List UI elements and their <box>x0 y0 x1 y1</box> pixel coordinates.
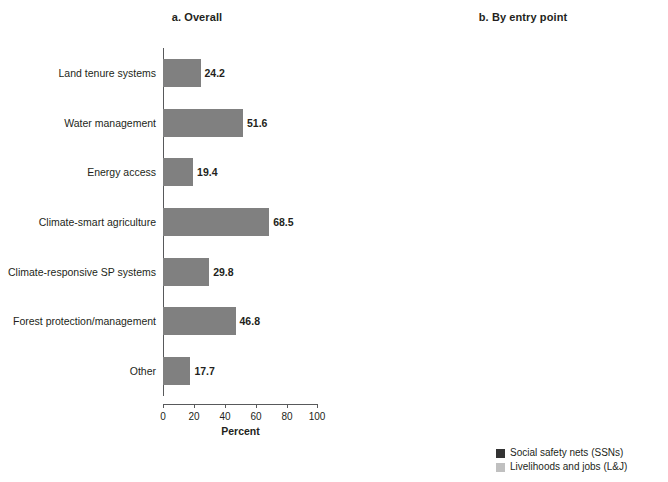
bar-group: Climate-responsive SP systems 29.8 <box>163 247 318 297</box>
bar-group: Forest protection/management 46.8 <box>163 297 318 347</box>
bar-overall: 29.8 <box>163 258 209 286</box>
legend-label: Social safety nets (SSNs) <box>510 448 623 458</box>
x-tick <box>287 404 288 408</box>
category-label: Other <box>130 366 156 377</box>
bar-group: Other 17.7 <box>163 346 318 396</box>
bar-value-label: 19.4 <box>197 167 217 178</box>
panel-a-x-axis: 0 20 40 60 80 100 <box>163 404 318 405</box>
bar-value-label: 24.2 <box>205 68 225 79</box>
x-tick <box>317 404 318 408</box>
bar-overall: 19.4 <box>163 158 193 186</box>
x-tick <box>256 404 257 408</box>
panel-b-title: b. By entry point <box>334 11 668 23</box>
bar-value-label: 68.5 <box>273 217 293 228</box>
bar-overall: 24.2 <box>163 59 201 87</box>
legend-item-livelihoods: Livelihoods and jobs (L&J) <box>496 460 627 474</box>
x-tick-label: 100 <box>309 411 326 422</box>
category-label: Water management <box>64 118 156 129</box>
panel-a-x-axis-title: Percent <box>163 425 318 437</box>
x-tick <box>194 404 195 408</box>
panel-b-by-entry-point: b. By entry point Land tenure systems 18… <box>334 0 668 482</box>
bar-overall: 51.6 <box>163 109 243 137</box>
legend-swatch-icon <box>496 463 505 472</box>
category-label: Climate-smart agriculture <box>39 217 156 228</box>
x-tick-label: 80 <box>281 411 292 422</box>
x-tick-label: 20 <box>188 411 199 422</box>
legend-item-ssn: Social safety nets (SSNs) <box>496 446 627 460</box>
bar-overall: 68.5 <box>163 208 269 236</box>
bar-group: Energy access 19.4 <box>163 147 318 197</box>
x-tick-label: 0 <box>160 411 166 422</box>
bar-value-label: 17.7 <box>194 366 214 377</box>
legend-label: Livelihoods and jobs (L&J) <box>510 462 627 472</box>
category-label: Forest protection/management <box>13 316 156 327</box>
bar-value-label: 29.8 <box>213 267 233 278</box>
bar-group: Climate-smart agriculture 68.5 <box>163 197 318 247</box>
panel-a-plot-area: Land tenure systems 24.2 Water managemen… <box>163 48 318 396</box>
panel-a-title: a. Overall <box>0 11 334 23</box>
x-tick <box>225 404 226 408</box>
panel-a-overall: a. Overall Land tenure systems 24.2 Wate… <box>0 0 334 482</box>
category-label: Climate-responsive SP systems <box>8 267 156 278</box>
bar-group: Land tenure systems 24.2 <box>163 48 318 98</box>
bar-overall: 46.8 <box>163 307 236 335</box>
x-tick <box>163 404 164 408</box>
bar-overall: 17.7 <box>163 357 190 385</box>
legend-swatch-icon <box>496 449 505 458</box>
x-tick-label: 40 <box>219 411 230 422</box>
x-tick-label: 60 <box>250 411 261 422</box>
bar-value-label: 46.8 <box>240 316 260 327</box>
bar-group: Water management 51.6 <box>163 98 318 148</box>
category-label: Land tenure systems <box>59 68 156 79</box>
figure-two-panel-bar-charts: a. Overall Land tenure systems 24.2 Wate… <box>0 0 668 482</box>
legend: Social safety nets (SSNs) Livelihoods an… <box>496 446 627 474</box>
category-label: Energy access <box>87 167 156 178</box>
bar-value-label: 51.6 <box>247 118 267 129</box>
